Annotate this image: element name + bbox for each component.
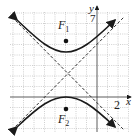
x-axis-label: x bbox=[126, 96, 131, 107]
y-tick-label: 7 bbox=[90, 13, 96, 24]
focus-2-point bbox=[64, 107, 69, 112]
x-tick-label: 2 bbox=[114, 99, 120, 111]
focus-1-point bbox=[64, 39, 69, 44]
focus-1-label: F1 bbox=[58, 19, 69, 34]
focus-2-label: F2 bbox=[58, 113, 69, 128]
